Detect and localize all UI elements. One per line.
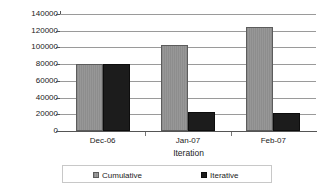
x-axis-tick-label: Jan-07 (158, 136, 218, 146)
y-axis-tick-label: 0 (14, 127, 58, 135)
y-axis-tick-mark (56, 14, 60, 15)
y-axis-tick-label: 60000 (14, 77, 58, 85)
x-axis-title: Iteration (60, 148, 317, 159)
legend-swatch-iterative-icon (201, 172, 207, 178)
x-axis-tick-label: Dec-06 (73, 136, 133, 146)
y-axis-tick-mark (56, 131, 60, 132)
legend-entry-cumulative: Cumulative (93, 169, 142, 181)
bar-iterative-feb-07 (273, 113, 300, 131)
y-axis-tick-label: 20000 (14, 110, 58, 118)
y-axis-tick-labels: 020000400006000080000100000120000140000 (14, 11, 58, 129)
bar-cumulative-feb-07 (246, 27, 273, 131)
gridline (60, 31, 316, 32)
bar-iterative-jan-07 (188, 112, 215, 131)
x-axis-line (60, 131, 317, 132)
y-axis-tick-label: 100000 (14, 43, 58, 51)
y-axis-tick-mark (56, 31, 60, 32)
legend-label-iterative: Iterative (210, 171, 238, 180)
bar-iterative-dec-06 (103, 64, 130, 131)
y-axis-tick-label: 140000 (14, 10, 58, 18)
bar-cumulative-dec-06 (76, 64, 103, 131)
bar-chart: No. Pages 020000400006000080000100000120… (0, 0, 332, 191)
y-axis-tick-mark (56, 98, 60, 99)
legend-swatch-cumulative-icon (93, 172, 99, 178)
chart-legend: Cumulative Iterative (62, 165, 272, 183)
legend-entry-iterative: Iterative (201, 169, 238, 181)
y-axis-tick-label: 40000 (14, 94, 58, 102)
y-axis-tick-mark (56, 114, 60, 115)
y-axis-tick-mark (56, 64, 60, 65)
x-axis-tick-labels: Dec-06Jan-07Feb-07 (60, 136, 317, 148)
x-axis-tick-mark (145, 132, 146, 136)
legend-label-cumulative: Cumulative (102, 171, 142, 180)
bar-cumulative-jan-07 (161, 45, 188, 131)
x-axis-tick-label: Feb-07 (243, 136, 303, 146)
y-axis-tick-mark (56, 47, 60, 48)
gridline (60, 47, 316, 48)
gridline (60, 14, 316, 15)
y-axis-tick-label: 120000 (14, 27, 58, 35)
x-axis-tick-mark (231, 132, 232, 136)
plot-area (60, 14, 316, 131)
y-axis-tick-mark (56, 81, 60, 82)
y-axis-tick-label: 80000 (14, 60, 58, 68)
